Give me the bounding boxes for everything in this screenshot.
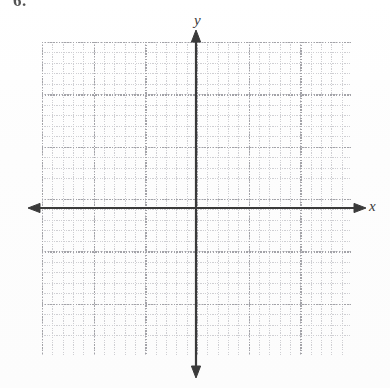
- x-axis-arrow-right-icon: [354, 203, 366, 212]
- x-axis-arrow-left-icon: [28, 203, 40, 212]
- y-axis-arrow-down-icon: [191, 366, 200, 378]
- y-axis-arrow-up-icon: [191, 30, 200, 42]
- coordinate-grid: [42, 42, 352, 356]
- y-axis-label: y: [194, 12, 201, 29]
- grid-horizontal-major-lines: [42, 42, 352, 356]
- x-axis-label: x: [369, 198, 376, 215]
- problem-number-label: 6.: [13, 0, 27, 11]
- worksheet-page: 6. y x: [0, 0, 390, 388]
